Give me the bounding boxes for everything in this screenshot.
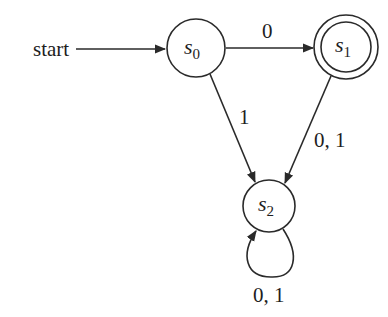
start-arrow: start [33, 37, 165, 61]
state-s1: s1 [314, 15, 378, 79]
edge-label-s0-s2: 1 [239, 105, 250, 129]
edge-label-s2-s2: 0, 1 [253, 283, 285, 307]
state-s0: s0 [167, 19, 225, 77]
transition-s0-s2: 1 [210, 74, 255, 182]
edge-label-s1-s2: 0, 1 [314, 128, 346, 152]
transition-s1-s2: 0, 1 [285, 76, 346, 183]
state-s2: s2 [243, 180, 295, 232]
state-diagram: start 0 1 0, 1 0, 1 s0 s1 s2 [0, 0, 388, 317]
edge-label-s0-s1: 0 [262, 19, 273, 43]
transition-s2-s2: 0, 1 [247, 229, 293, 307]
edge-s2-self-loop [247, 229, 293, 277]
transition-s0-s1: 0 [226, 19, 313, 48]
start-label: start [33, 37, 69, 61]
